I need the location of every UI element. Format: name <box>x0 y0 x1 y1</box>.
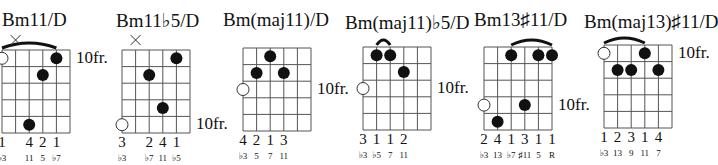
barre-arc <box>511 40 552 45</box>
interval-label: 11 <box>274 151 294 161</box>
interval-label: ♭7 <box>46 153 66 163</box>
finger-number: 1 <box>504 131 518 148</box>
finger-number: 2 <box>397 131 411 148</box>
finger-number: 1 <box>545 131 559 148</box>
finger-dot <box>612 64 624 76</box>
finger-number: 2 <box>36 134 50 151</box>
finger-number: 1 <box>0 134 9 151</box>
fret-position-label: 10fr. <box>76 48 108 68</box>
finger-dot <box>371 49 383 61</box>
finger-number: 1 <box>370 131 384 148</box>
interval-label: ♭3 <box>112 153 132 163</box>
finger-number: 4 <box>236 132 250 149</box>
fret-position-label: 10fr. <box>437 78 469 98</box>
interval-label: 11 <box>394 150 414 160</box>
finger-dot <box>625 64 637 76</box>
barre-arc <box>604 38 645 43</box>
interval-label: 7 <box>648 148 668 158</box>
fret-position-label: 10fr. <box>558 95 590 115</box>
chord-name: Bm11♭5/D <box>116 9 199 32</box>
finger-dot <box>278 67 290 79</box>
finger-dot <box>50 52 62 64</box>
fretboard-grid <box>112 30 200 143</box>
fret-position-label: 10fr. <box>678 43 710 63</box>
fretboard-grid <box>0 30 80 143</box>
finger-number: 3 <box>518 131 532 148</box>
finger-dot <box>519 99 531 111</box>
finger-number: 3 <box>356 131 370 148</box>
finger-dot <box>639 47 651 59</box>
muted-string-icon <box>131 35 141 45</box>
fretboard-grid <box>353 27 441 140</box>
open-note-circle <box>0 52 8 64</box>
finger-number: 1 <box>597 129 611 146</box>
finger-number: 1 <box>263 132 277 149</box>
open-note-circle <box>478 99 490 111</box>
finger-number: 2 <box>142 134 156 151</box>
barre-arc <box>377 40 391 45</box>
finger-number: 4 <box>22 134 36 151</box>
finger-dot <box>546 49 558 61</box>
fretboard-grid <box>233 28 321 141</box>
finger-number: 4 <box>491 131 505 148</box>
finger-number: 3 <box>115 134 129 151</box>
finger-number: 1 <box>49 134 63 151</box>
interval-label: R <box>542 150 562 160</box>
barre-arc <box>2 43 56 48</box>
finger-number: 1 <box>383 131 397 148</box>
fretboard-grid <box>474 27 562 140</box>
interval-label: ♭5 <box>166 153 186 163</box>
interval-label: ♭3 <box>0 153 12 163</box>
finger-dot <box>384 49 396 61</box>
finger-number: 4 <box>651 129 665 146</box>
fret-position-label: 10fr. <box>196 114 228 134</box>
open-note-circle <box>598 47 610 59</box>
finger-dot <box>264 50 276 62</box>
finger-number: 1 <box>531 131 545 148</box>
finger-number: 1 <box>638 129 652 146</box>
finger-number: 4 <box>156 134 170 151</box>
finger-dot <box>492 116 504 128</box>
fret-position-label: 10fr. <box>317 79 349 99</box>
finger-dot <box>398 66 410 78</box>
finger-number: 2 <box>477 131 491 148</box>
finger-number: 3 <box>624 129 638 146</box>
finger-dot <box>652 64 664 76</box>
finger-dot <box>505 49 517 61</box>
finger-number: 1 <box>169 134 183 151</box>
finger-dot <box>37 69 49 81</box>
finger-dot <box>143 69 155 81</box>
open-note-circle <box>237 84 249 96</box>
open-note-circle <box>116 119 128 131</box>
fretboard-grid <box>594 25 682 138</box>
finger-dot <box>157 102 169 114</box>
open-note-circle <box>357 83 369 95</box>
chord-name: Bm11/D <box>2 9 67 31</box>
finger-number: 2 <box>611 129 625 146</box>
finger-dot <box>532 49 544 61</box>
finger-number: 3 <box>277 132 291 149</box>
finger-dot <box>170 52 182 64</box>
finger-dot <box>251 67 263 79</box>
finger-number: 2 <box>250 132 264 149</box>
finger-dot <box>23 119 35 131</box>
